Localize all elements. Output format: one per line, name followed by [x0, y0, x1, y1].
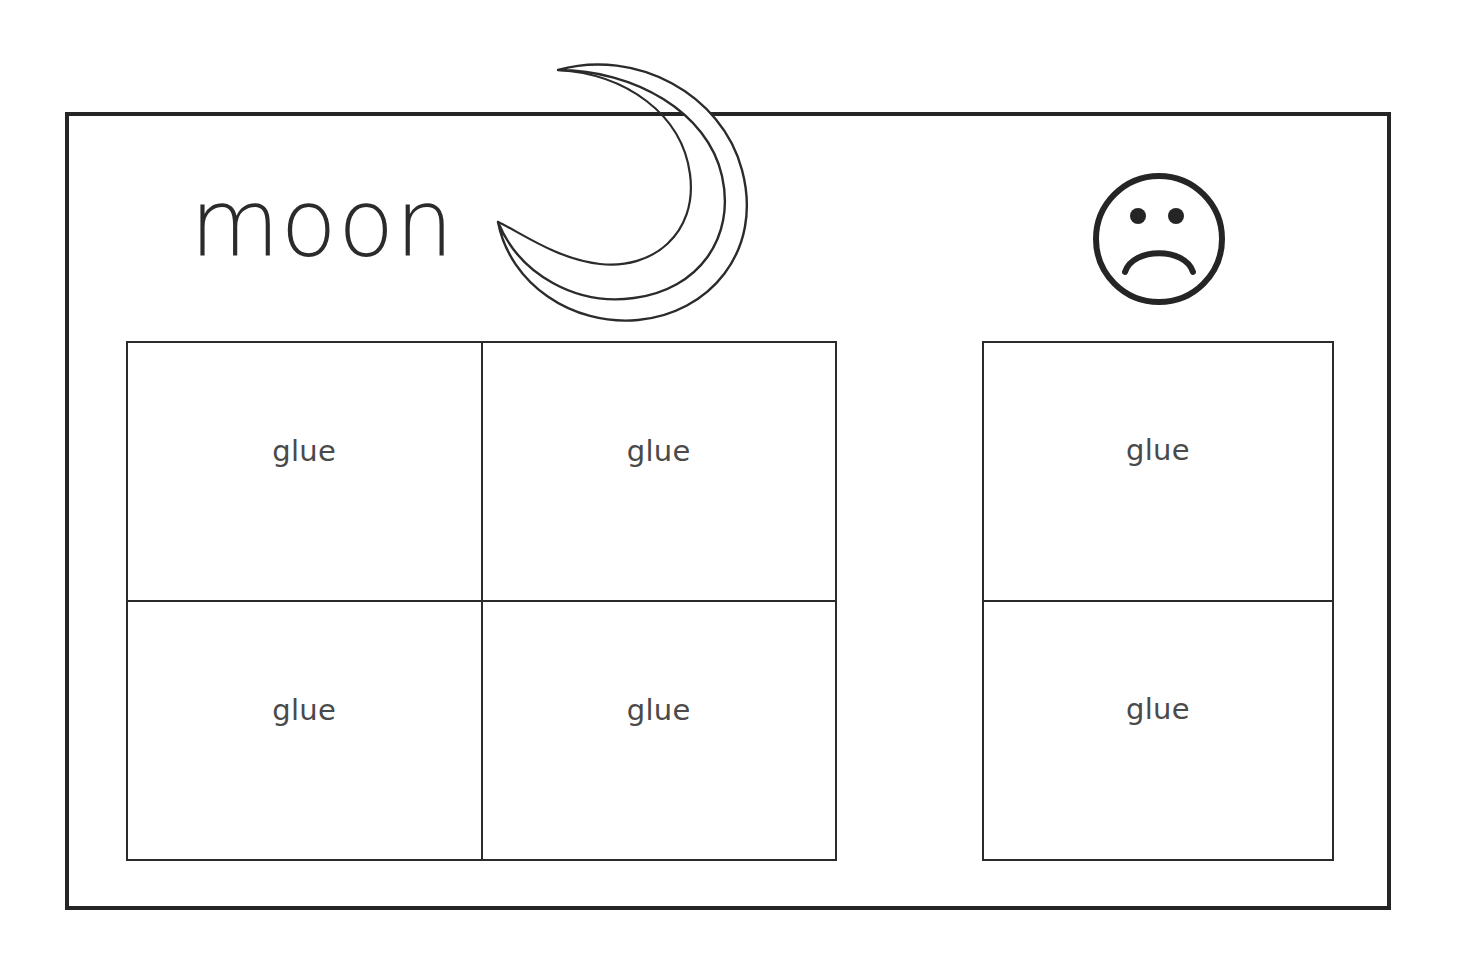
glue-cell-label: glue — [1126, 692, 1190, 726]
right-glue-grid: glue glue — [982, 341, 1334, 861]
glue-cell-label: glue — [1126, 433, 1190, 467]
worksheet-page: glue glue glue glue glue glue moon — [0, 0, 1459, 958]
glue-cell-label: glue — [272, 693, 336, 727]
glue-cell-label: glue — [627, 434, 691, 468]
crescent-moon-icon — [486, 52, 772, 324]
prompt-word: moon — [190, 178, 455, 270]
glue-cell[interactable]: glue — [128, 602, 483, 861]
glue-cell[interactable]: glue — [984, 602, 1334, 861]
sad-face-icon — [1088, 168, 1230, 310]
glue-cell[interactable]: glue — [483, 602, 838, 861]
glue-cell-label: glue — [272, 434, 336, 468]
glue-cell[interactable]: glue — [483, 343, 838, 602]
glue-cell[interactable]: glue — [984, 343, 1334, 602]
left-glue-grid: glue glue glue glue — [126, 341, 837, 861]
glue-cell-label: glue — [627, 693, 691, 727]
glue-cell[interactable]: glue — [128, 343, 483, 602]
